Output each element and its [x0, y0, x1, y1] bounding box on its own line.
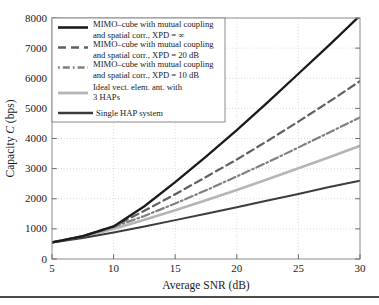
legend-label-line1: Single HAP system	[96, 108, 163, 118]
x-tick-label: 25	[293, 262, 305, 274]
legend-label-line1: MIMO–cube with mutual coupling	[93, 39, 214, 49]
y-tick-label: 1000	[25, 222, 48, 234]
x-tick-label: 5	[49, 262, 55, 274]
x-tick-label: 20	[231, 262, 243, 274]
y-tick-label: 0	[42, 253, 48, 265]
figure-container: 0 1000 2000 3000 4000 5000 6000 7000 800…	[0, 0, 379, 305]
x-tick-label: 15	[170, 262, 182, 274]
y-tick-label: 3000	[25, 162, 48, 174]
capacity-vs-snr-chart: 0 1000 2000 3000 4000 5000 6000 7000 800…	[0, 0, 379, 305]
y-tick-label: 5000	[25, 102, 48, 114]
y-tick-label: 7000	[25, 42, 48, 54]
y-tick-label: 6000	[25, 72, 48, 84]
legend-label-line2: and spatial corr., XPD = ∞	[93, 30, 184, 40]
legend-label-line2: and spatial corr., XPD = 10 dB	[93, 70, 199, 80]
legend-label-line1: MIMO–cube with mutual coupling	[93, 19, 214, 29]
y-axis-title-suffix: (bps)	[4, 99, 17, 126]
x-tick-label: 30	[355, 262, 367, 274]
y-tick-label: 8000	[25, 12, 48, 24]
y-axis-title: Capacity C (bps)	[4, 99, 17, 177]
y-tick-label: 2000	[25, 192, 48, 204]
x-tick-label: 10	[108, 262, 120, 274]
legend-label-line1: MIMO–cube with mutual coupling	[93, 59, 214, 69]
y-tick-labels: 0 1000 2000 3000 4000 5000 6000 7000 800…	[25, 12, 48, 265]
y-tick-label: 4000	[25, 132, 48, 144]
legend-label-line2: and spatial corr., XPD = 20 dB	[93, 50, 199, 60]
y-axis-title-prefix: Capacity	[4, 134, 17, 178]
svg-text:Capacity C (bps): Capacity C (bps)	[4, 99, 17, 177]
bottom-divider	[0, 296, 379, 298]
x-axis-title: Average SNR (dB)	[162, 279, 249, 292]
legend: MIMO–cube with mutual coupling and spati…	[52, 18, 225, 122]
legend-label-line1: Ideal vect. elem. ant. with	[93, 82, 183, 92]
x-tick-labels: 5 10 15 20 25 30	[49, 262, 366, 274]
legend-label-line2: 3 HAPs	[93, 92, 121, 102]
